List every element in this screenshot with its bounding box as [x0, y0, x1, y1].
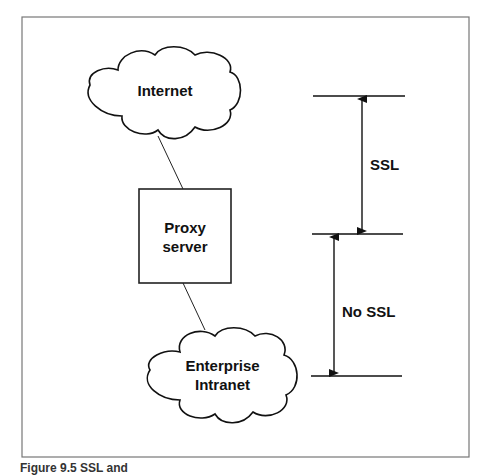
connector-internet-proxy — [158, 136, 183, 189]
proxy-label-line2: server — [139, 237, 231, 256]
ssl-label: SSL — [370, 155, 399, 174]
proxy-server-label: Proxy server — [139, 218, 231, 256]
proxy-label-line1: Proxy — [139, 218, 231, 237]
no-ssl-label: No SSL — [342, 302, 395, 321]
intranet-label-line1: Enterprise — [165, 356, 280, 375]
figure-caption: Figure 9.5 SSL and — [20, 461, 128, 475]
internet-label: Internet — [120, 81, 210, 100]
intranet-label: Enterprise Intranet — [165, 356, 280, 394]
intranet-label-line2: Intranet — [165, 375, 280, 394]
connector-proxy-intranet — [183, 283, 205, 330]
